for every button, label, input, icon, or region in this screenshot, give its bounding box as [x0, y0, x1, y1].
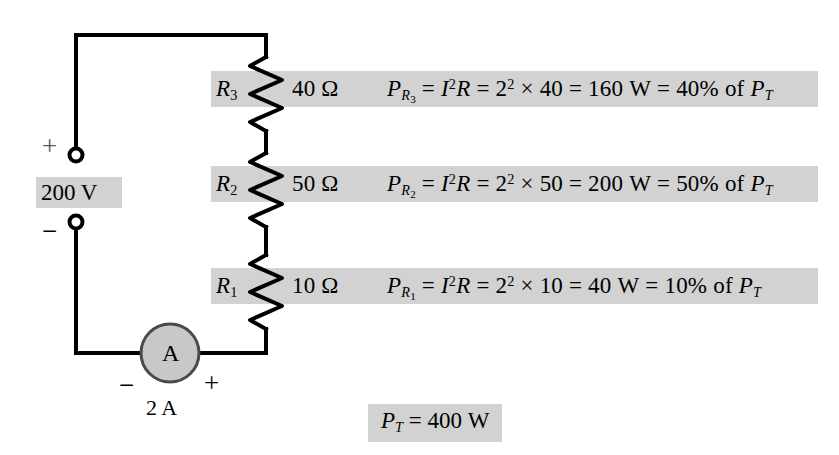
power-unit-r3: W	[629, 76, 651, 101]
times-symbol-r2: ×	[521, 171, 534, 196]
total-power-sub-r3: T	[765, 87, 773, 103]
ammeter-minus-sign: −	[119, 372, 134, 399]
resistor-label-r2-sub: 2	[230, 182, 237, 198]
total-power-box: PT = 400 W	[368, 404, 502, 442]
circuit-figure: + 200 V − A − + 2 A R3 40 Ω PR3 = I2R = …	[0, 0, 839, 455]
resistor-label-r1-sub: 1	[230, 284, 237, 300]
current-squared-exp-r3: 2	[507, 76, 514, 92]
current-squared-exp-r1: 2	[507, 273, 514, 289]
total-power-symbol-r3: P	[750, 76, 764, 101]
total-power-symbol-r1: P	[739, 273, 753, 298]
source-positive-terminal	[70, 149, 83, 162]
of-text-r2: of	[725, 171, 745, 196]
resistance-number-r2: 50	[292, 171, 315, 196]
current-squared-exp-r2: 2	[507, 171, 514, 187]
power-percent-r2: 50%	[676, 171, 719, 196]
power-value-r1: 40	[588, 273, 611, 298]
times-symbol-r3: ×	[521, 76, 534, 101]
total-power-equals: =	[409, 408, 422, 433]
source-plus-sign: +	[42, 133, 57, 160]
power-equation-r1: PR1 = I2R = 22 × 10 = 40 W = 10% of PT	[387, 274, 761, 303]
resistor-label-r2: R2	[216, 172, 238, 197]
wire-bottom-left	[76, 222, 141, 353]
multiplier-r2: 50	[540, 171, 563, 196]
total-power-symbol-r2: P	[750, 171, 764, 196]
power-percent-r1: 10%	[664, 273, 707, 298]
resistor-r2-zigzag	[250, 153, 282, 227]
source-minus-sign: −	[42, 218, 57, 245]
current-squared-base-r3: 2	[496, 76, 508, 101]
power-value-r2: 200	[588, 171, 623, 196]
power-equation-r3: PR3 = I2R = 22 × 40 = 160 W = 40% of PT	[387, 77, 773, 106]
total-power-symbol: P	[381, 408, 395, 433]
resistance-value-r2: 50 Ω	[292, 172, 339, 195]
power-symbol-r1: P	[387, 273, 401, 298]
resistor-label-r3-symbol: R	[216, 76, 230, 101]
current-squared-base-r2: 2	[496, 171, 508, 196]
resistance-value-r1: 10 Ω	[292, 274, 339, 297]
of-text-r1: of	[713, 273, 733, 298]
total-power-value: 400	[427, 408, 462, 433]
resistor-label-r1-symbol: R	[216, 273, 230, 298]
resistor-label-r1: R1	[216, 274, 238, 299]
current-squared-base-r1: 2	[496, 273, 508, 298]
source-voltage-label: 200 V	[41, 181, 97, 204]
total-power-unit: W	[468, 408, 490, 433]
ohm-symbol-r1: Ω	[321, 273, 338, 298]
power-sub-symbol-r2: R	[401, 182, 410, 198]
resistor-label-r2-symbol: R	[216, 171, 230, 196]
power-equation-r2: PR2 = I2R = 22 × 50 = 200 W = 50% of PT	[387, 172, 773, 201]
total-power-sub-r1: T	[753, 284, 761, 300]
of-text-r3: of	[725, 76, 745, 101]
ammeter-symbol: A	[162, 341, 179, 365]
resistor-label-r3: R3	[216, 77, 238, 102]
resistance-number-r3: 40	[292, 76, 315, 101]
ohm-symbol-r3: Ω	[321, 76, 338, 101]
ohm-symbol-r2: Ω	[321, 171, 338, 196]
multiplier-r1: 10	[540, 273, 563, 298]
total-power-subscript: T	[395, 419, 403, 435]
power-percent-r3: 40%	[676, 76, 719, 101]
power-sub-symbol-r3: R	[401, 87, 410, 103]
wire-bottom-right	[199, 329, 266, 353]
source-negative-terminal	[70, 216, 83, 229]
ammeter-plus-sign: +	[204, 370, 219, 397]
power-symbol-r2: P	[387, 171, 401, 196]
multiplier-r3: 40	[540, 76, 563, 101]
resistance-number-r1: 10	[292, 273, 315, 298]
total-power-sub-r2: T	[765, 182, 773, 198]
resistor-r1-zigzag	[250, 255, 282, 329]
resistor-r3-zigzag	[250, 57, 282, 131]
resistance-value-r3: 40 Ω	[292, 77, 339, 100]
resistor-label-r3-sub: 3	[230, 87, 237, 103]
power-value-r3: 160	[588, 76, 623, 101]
power-unit-r2: W	[629, 171, 651, 196]
power-sub-symbol-r1: R	[401, 284, 410, 300]
times-symbol-r1: ×	[521, 273, 534, 298]
ammeter-reading: 2 A	[146, 397, 177, 419]
power-unit-r1: W	[617, 273, 639, 298]
power-symbol-r3: P	[387, 76, 401, 101]
